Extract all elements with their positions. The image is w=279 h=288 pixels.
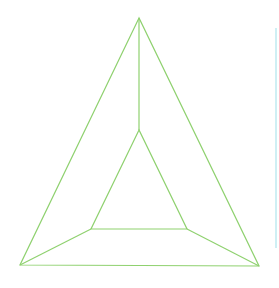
pyramid-diagram xyxy=(0,0,279,288)
connector-left xyxy=(20,229,91,265)
connector-right xyxy=(187,229,259,266)
inner-triangle xyxy=(91,130,187,229)
